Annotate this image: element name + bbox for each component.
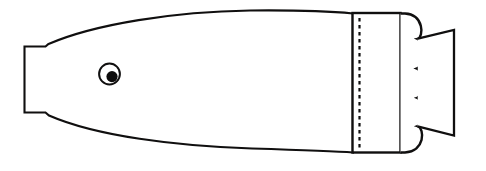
line-drawing-canvas	[0, 0, 486, 171]
figure-root	[0, 0, 486, 171]
end-cap-trapezoid-shape	[418, 30, 454, 136]
eye-pupil-icon	[106, 71, 117, 82]
